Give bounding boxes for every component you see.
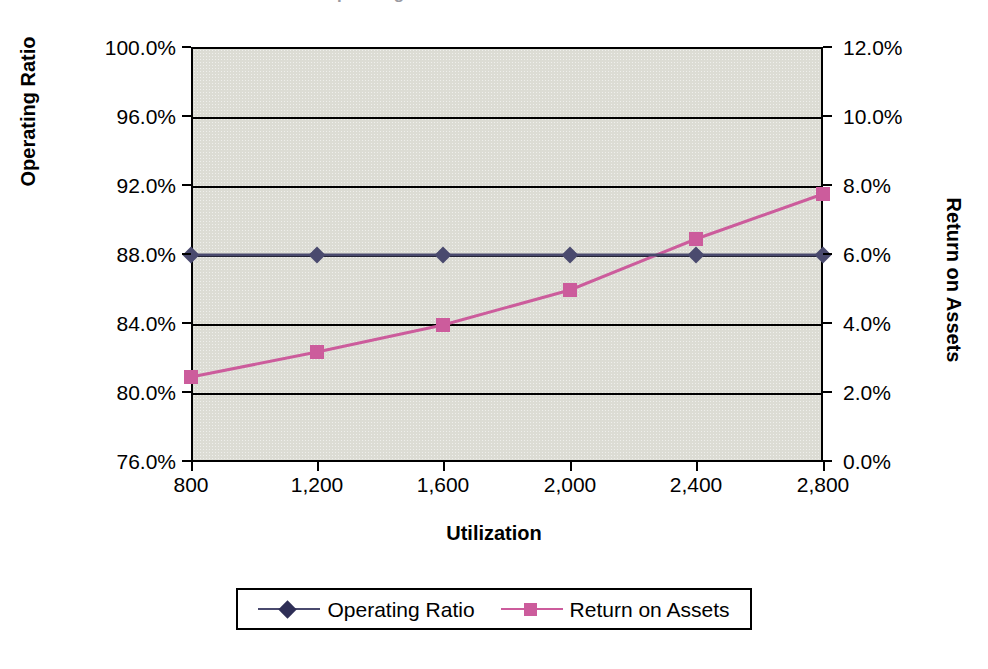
tick-left-84 bbox=[182, 322, 191, 324]
data-point-roa-2400 bbox=[689, 232, 703, 246]
legend-key-return-on-assets bbox=[501, 601, 563, 617]
x-axis-label-2800: 2,800 bbox=[797, 474, 850, 495]
y-axis-left-label-92: 92.0% bbox=[116, 175, 176, 196]
y-axis-right-label-0: 0.0% bbox=[843, 451, 891, 472]
y-axis-left-label-88: 88.0% bbox=[116, 244, 176, 265]
y-axis-left-title: Operating Ratio bbox=[17, 147, 40, 187]
x-axis-label-2000: 2,000 bbox=[544, 474, 597, 495]
y-axis-left-label-100: 100.0% bbox=[105, 37, 176, 58]
data-point-roa-1200 bbox=[310, 345, 324, 359]
tick-bottom-1200 bbox=[317, 462, 319, 471]
legend-label-return-on-assets: Return on Assets bbox=[570, 599, 730, 620]
y-axis-left-label-76: 76.0% bbox=[116, 451, 176, 472]
tick-bottom-1600 bbox=[443, 462, 445, 471]
data-point-roa-2000 bbox=[563, 283, 577, 297]
legend-item-operating-ratio[interactable]: Operating Ratio bbox=[258, 599, 474, 620]
tick-left-100 bbox=[182, 46, 191, 48]
y-axis-right-title-wrap: Return on Assets bbox=[930, 150, 976, 410]
data-point-or-1200 bbox=[309, 247, 326, 264]
data-point-roa-1600 bbox=[436, 318, 450, 332]
tick-left-96 bbox=[182, 115, 191, 117]
y-axis-right-label-2: 2.0% bbox=[843, 382, 891, 403]
chart-legend: Operating Ratio Return on Assets bbox=[236, 588, 752, 630]
y-axis-left-label-96: 96.0% bbox=[116, 106, 176, 127]
y-axis-right-label-12: 12.0% bbox=[843, 37, 903, 58]
y-axis-right-label-6: 6.0% bbox=[843, 244, 891, 265]
data-point-or-2800 bbox=[815, 247, 832, 264]
tick-right-4 bbox=[823, 322, 832, 324]
data-point-or-2400 bbox=[688, 247, 705, 264]
data-point-or-2000 bbox=[562, 247, 579, 264]
tick-right-6 bbox=[823, 253, 832, 255]
tick-bottom-2800 bbox=[823, 462, 825, 471]
data-point-or-1600 bbox=[435, 247, 452, 264]
tick-left-76 bbox=[182, 460, 191, 462]
square-icon bbox=[524, 603, 537, 616]
x-axis-label-2400: 2,400 bbox=[670, 474, 723, 495]
tick-bottom-2400 bbox=[696, 462, 698, 471]
x-axis-label-1600: 1,600 bbox=[417, 474, 470, 495]
tick-right-10 bbox=[823, 115, 832, 117]
tick-right-12 bbox=[823, 46, 832, 48]
legend-label-operating-ratio: Operating Ratio bbox=[327, 599, 474, 620]
y-axis-left-label-84: 84.0% bbox=[116, 313, 176, 334]
diamond-icon bbox=[279, 600, 297, 618]
data-point-roa-2800 bbox=[816, 187, 830, 201]
y-axis-right-label-4: 4.0% bbox=[843, 313, 891, 334]
tick-left-88 bbox=[182, 253, 191, 255]
x-axis-label-1200: 1,200 bbox=[291, 474, 344, 495]
y-axis-left-label-80: 80.0% bbox=[116, 382, 176, 403]
tick-left-92 bbox=[182, 184, 191, 186]
tick-bottom-2000 bbox=[570, 462, 572, 471]
data-point-or-800 bbox=[183, 247, 200, 264]
y-axis-right-title: Return on Assets bbox=[942, 198, 965, 363]
data-point-roa-800 bbox=[184, 370, 198, 384]
x-axis-title: Utilization bbox=[0, 522, 988, 545]
legend-key-operating-ratio bbox=[258, 601, 320, 617]
tick-right-8 bbox=[823, 184, 832, 186]
x-axis-label-800: 800 bbox=[173, 474, 208, 495]
tick-right-2 bbox=[823, 391, 832, 393]
tick-bottom-800 bbox=[191, 462, 193, 471]
series-line-return-on-assets bbox=[191, 194, 823, 377]
y-axis-right-label-8: 8.0% bbox=[843, 175, 891, 196]
y-axis-right-label-10: 10.0% bbox=[843, 106, 903, 127]
tick-left-80 bbox=[182, 391, 191, 393]
chart-container: Exhibit 4: Operating Ratio and Return on… bbox=[0, 0, 988, 669]
legend-item-return-on-assets[interactable]: Return on Assets bbox=[501, 599, 730, 620]
